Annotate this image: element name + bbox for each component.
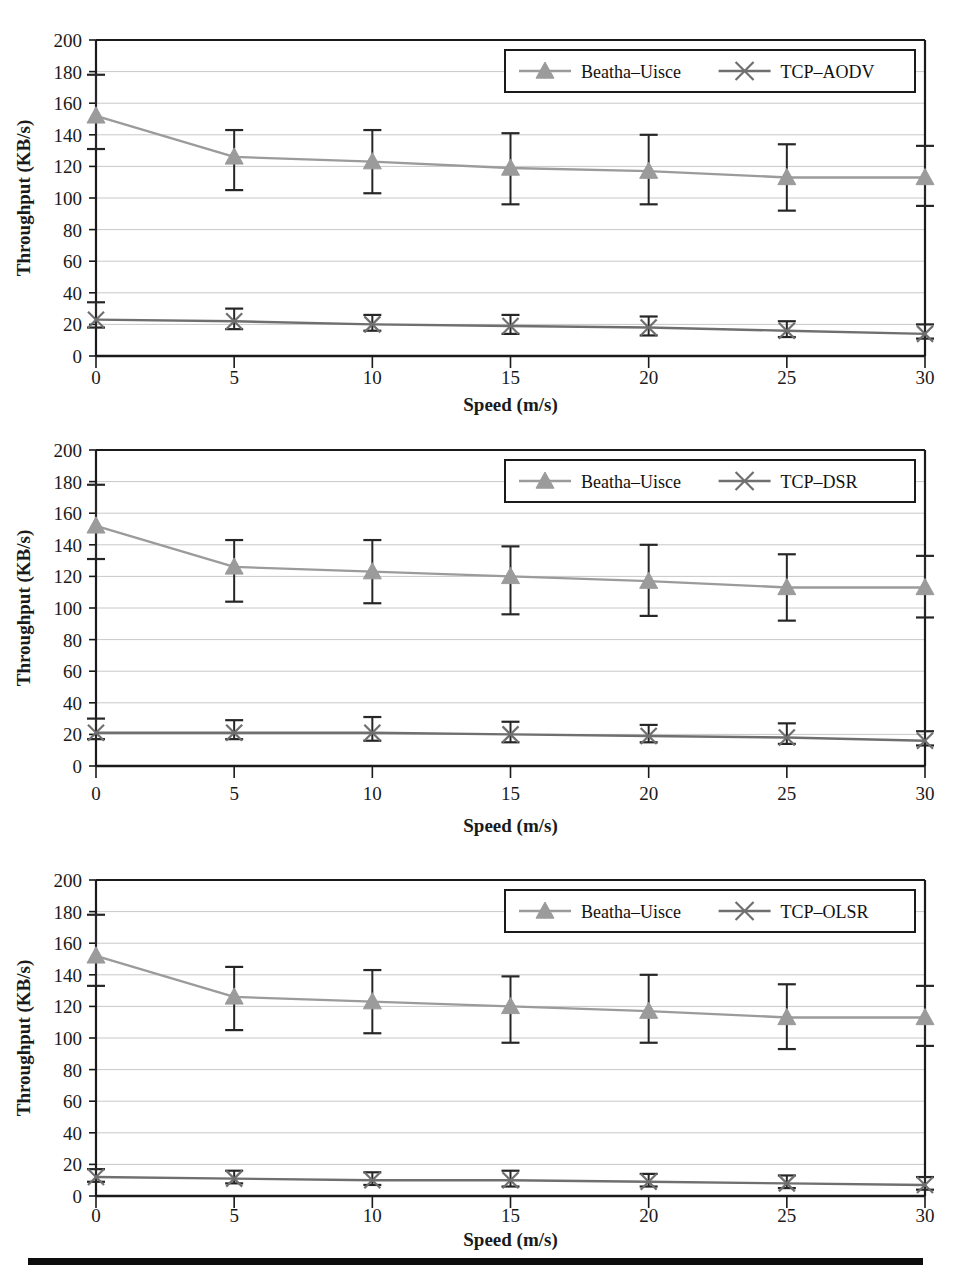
y-tick-label: 0 — [73, 756, 83, 777]
y-tick-label: 160 — [54, 93, 83, 114]
error-bar — [225, 720, 243, 739]
series-beatha-uisce — [87, 75, 934, 211]
legend: Beatha–UisceTCP–AODV — [505, 50, 915, 92]
y-axis-title: Throughput (KB/s) — [13, 120, 35, 276]
y-tick-label: 40 — [63, 283, 82, 304]
series-tcp — [87, 302, 934, 342]
x-tick-label: 5 — [229, 783, 239, 804]
y-axis-ticks: 020406080100120140160180200 — [54, 30, 97, 367]
y-tick-label: 20 — [63, 1154, 82, 1175]
chart-panel-olsr: 020406080100120140160180200051015202530S… — [0, 858, 954, 1258]
x-tick-label: 20 — [639, 783, 658, 804]
figure-page: 020406080100120140160180200051015202530S… — [0, 0, 954, 1285]
legend: Beatha–UisceTCP–DSR — [505, 460, 915, 502]
y-axis-title: Throughput (KB/s) — [13, 530, 35, 686]
x-tick-label: 30 — [916, 783, 935, 804]
legend-label: Beatha–Uisce — [581, 62, 681, 82]
series-beatha-uisce — [87, 485, 934, 621]
x-tick-label: 25 — [777, 367, 796, 388]
x-axis-title: Speed (m/s) — [463, 815, 557, 837]
y-tick-label: 100 — [54, 598, 83, 619]
error-bar — [778, 723, 796, 744]
x-tick-label: 0 — [91, 367, 101, 388]
x-tick-label: 10 — [363, 367, 382, 388]
y-tick-label: 100 — [54, 188, 83, 209]
y-tick-label: 20 — [63, 314, 82, 335]
y-tick-label: 0 — [73, 1186, 83, 1207]
x-tick-label: 30 — [916, 367, 935, 388]
x-tick-label: 30 — [916, 1205, 935, 1226]
legend-label: Beatha–Uisce — [581, 472, 681, 492]
legend-label: TCP–AODV — [781, 62, 875, 82]
y-tick-label: 20 — [63, 724, 82, 745]
x-tick-label: 15 — [501, 783, 520, 804]
y-tick-label: 140 — [54, 125, 83, 146]
y-tick-label: 200 — [54, 440, 83, 461]
x-tick-label: 0 — [91, 1205, 101, 1226]
y-tick-label: 40 — [63, 1123, 82, 1144]
y-tick-label: 160 — [54, 503, 83, 524]
y-tick-label: 80 — [63, 1060, 82, 1081]
error-bar — [640, 725, 658, 742]
series-tcp — [87, 1169, 934, 1193]
x-tick-label: 0 — [91, 783, 101, 804]
chart-svg-0: 020406080100120140160180200051015202530S… — [0, 18, 954, 428]
chart-svg-2: 020406080100120140160180200051015202530S… — [0, 858, 954, 1258]
x-tick-label: 25 — [777, 1205, 796, 1226]
y-tick-label: 120 — [54, 996, 83, 1017]
x-axis-ticks: 051015202530 — [91, 766, 934, 804]
triangle-marker — [87, 947, 105, 963]
series-beatha-uisce — [87, 915, 934, 1049]
y-tick-label: 160 — [54, 933, 83, 954]
x-tick-label: 15 — [501, 367, 520, 388]
y-tick-label: 40 — [63, 693, 82, 714]
chart-svg-1: 020406080100120140160180200051015202530S… — [0, 428, 954, 858]
footer-rule — [28, 1258, 923, 1265]
y-tick-label: 100 — [54, 1028, 83, 1049]
y-tick-label: 60 — [63, 661, 82, 682]
legend: Beatha–UisceTCP–OLSR — [505, 890, 915, 932]
x-tick-label: 20 — [639, 367, 658, 388]
y-tick-label: 180 — [54, 62, 83, 83]
y-axis-title: Throughput (KB/s) — [13, 960, 35, 1116]
y-tick-label: 60 — [63, 1091, 82, 1112]
chart-panel-aodv: 020406080100120140160180200051015202530S… — [0, 18, 954, 428]
x-axis-title: Speed (m/s) — [463, 394, 557, 416]
x-axis-title: Speed (m/s) — [463, 1229, 557, 1251]
y-tick-label: 80 — [63, 220, 82, 241]
x-tick-label: 10 — [363, 783, 382, 804]
legend-label: TCP–DSR — [781, 472, 858, 492]
y-axis-ticks: 020406080100120140160180200 — [54, 870, 97, 1207]
y-tick-label: 80 — [63, 630, 82, 651]
chart-panel-dsr: 020406080100120140160180200051015202530S… — [0, 428, 954, 858]
series-tcp — [87, 717, 934, 749]
triangle-marker — [87, 517, 105, 533]
y-tick-label: 180 — [54, 472, 83, 493]
y-tick-label: 140 — [54, 965, 83, 986]
y-tick-label: 120 — [54, 566, 83, 587]
y-tick-label: 120 — [54, 156, 83, 177]
triangle-marker — [87, 107, 105, 123]
y-tick-label: 140 — [54, 535, 83, 556]
y-tick-label: 0 — [73, 346, 83, 367]
x-axis-ticks: 051015202530 — [91, 356, 934, 388]
x-tick-label: 20 — [639, 1205, 658, 1226]
y-tick-label: 60 — [63, 251, 82, 272]
x-axis-ticks: 051015202530 — [91, 1196, 934, 1226]
x-tick-label: 10 — [363, 1205, 382, 1226]
error-bar — [87, 719, 105, 740]
x-tick-label: 15 — [501, 1205, 520, 1226]
x-tick-label: 5 — [229, 367, 239, 388]
legend-label: Beatha–Uisce — [581, 902, 681, 922]
x-tick-label: 5 — [229, 1205, 239, 1226]
legend-label: TCP–OLSR — [781, 902, 869, 922]
error-bar — [363, 717, 381, 741]
y-tick-label: 200 — [54, 870, 83, 891]
x-tick-label: 25 — [777, 783, 796, 804]
y-tick-label: 200 — [54, 30, 83, 51]
y-tick-label: 180 — [54, 902, 83, 923]
